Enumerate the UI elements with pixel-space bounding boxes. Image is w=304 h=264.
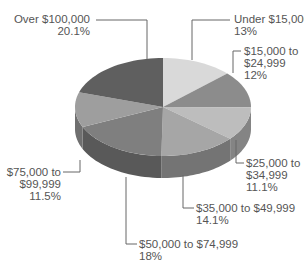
label-text: $25,000 to <box>246 157 300 169</box>
pie-slices <box>75 58 251 156</box>
label-text: Over $100,000 <box>8 13 90 25</box>
label-text: Under $15,000 <box>234 13 304 25</box>
label-under-15k: Under $15,000 13% <box>234 13 304 37</box>
label-value: 11.5% <box>0 190 61 202</box>
label-25k-35k: $25,000 to $34,999 11.1% <box>246 157 300 193</box>
label-text-2: $99,999 <box>0 178 61 190</box>
label-text: $15,000 to <box>244 45 298 57</box>
label-value: 20.1% <box>8 25 90 37</box>
label-75k-100k: $75,000 to $99,999 11.5% <box>0 166 61 202</box>
leader-35k-50k <box>183 175 194 208</box>
label-text: $50,000 to $74,999 <box>139 238 238 250</box>
label-value: 14.1% <box>196 214 295 226</box>
label-35k-50k: $35,000 to $49,999 14.1% <box>196 202 295 226</box>
label-value: 12% <box>244 69 298 81</box>
leader-under-15k <box>192 20 230 60</box>
label-text: $35,000 to $49,999 <box>196 202 295 214</box>
leader-over-100k <box>96 20 147 59</box>
label-15k-25k: $15,000 to $24,999 12% <box>244 45 298 81</box>
leader-50k-75k <box>126 177 137 244</box>
label-value: 18% <box>139 250 238 262</box>
label-text-2: $24,999 <box>244 57 298 69</box>
label-text: $75,000 to <box>0 166 61 178</box>
label-50k-75k: $50,000 to $74,999 18% <box>139 238 238 262</box>
leader-15k-25k <box>233 51 241 73</box>
leader-75k-100k <box>63 160 80 172</box>
label-value: 13% <box>234 25 304 37</box>
label-over-100k: Over $100,000 20.1% <box>8 13 90 37</box>
label-value: 11.1% <box>246 181 300 193</box>
label-text-2: $34,999 <box>246 169 300 181</box>
